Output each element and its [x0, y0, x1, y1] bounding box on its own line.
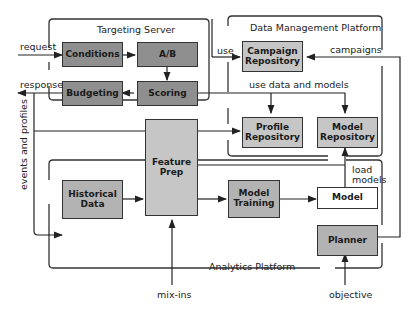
- model-repository-box[interactable]: Model Repository: [317, 117, 378, 148]
- ab-box[interactable]: A/B: [137, 42, 198, 67]
- profile-repository-box[interactable]: Profile Repository: [242, 117, 303, 148]
- model-training-box[interactable]: Model Training: [228, 180, 280, 218]
- use-data-and-models-label: use data and models: [249, 80, 349, 90]
- mix-ins-label: mix-ins: [157, 290, 192, 300]
- planner-box[interactable]: Planner: [317, 225, 378, 256]
- use-label: use: [217, 46, 234, 56]
- dmp-title: Data Management Platform: [250, 23, 381, 33]
- scoring-box[interactable]: Scoring: [137, 81, 198, 106]
- request-label: request: [20, 42, 56, 52]
- historical-data-box[interactable]: Historical Data: [62, 180, 123, 219]
- response-label: response: [20, 80, 63, 90]
- model-box[interactable]: Model: [317, 187, 378, 209]
- conditions-box[interactable]: Conditions: [62, 42, 123, 67]
- events-and-profiles-label: events and profiles: [18, 99, 29, 190]
- campaigns-label: campaigns: [330, 45, 382, 55]
- targeting-server-title: Targeting Server: [97, 25, 175, 35]
- load-models-label: load models: [352, 165, 388, 185]
- feature-prep-box[interactable]: Feature Prep: [145, 119, 198, 216]
- budgeting-box[interactable]: Budgeting: [62, 81, 123, 106]
- campaign-repository-box[interactable]: Campaign Repository: [242, 41, 303, 72]
- objective-label: objective: [329, 290, 372, 300]
- analytics-platform-title: Analytics Platform: [209, 262, 295, 272]
